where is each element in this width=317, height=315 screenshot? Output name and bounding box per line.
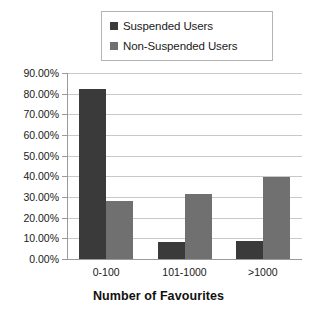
- chart-legend: Suspended Users Non-Suspended Users: [101, 11, 273, 61]
- x-axis-line: [67, 259, 302, 260]
- y-axis-tick-label: 50.00%: [3, 151, 59, 161]
- y-axis-tick-label: 10.00%: [3, 233, 59, 243]
- y-axis-tick-label: 70.00%: [3, 109, 59, 119]
- y-axis-tick-label: 20.00%: [3, 213, 59, 223]
- bar: [236, 241, 263, 259]
- bar: [263, 177, 290, 259]
- x-axis-tick-label: >1000: [223, 266, 303, 278]
- legend-item-suspended-users: Suspended Users: [110, 16, 264, 36]
- legend-item-label: Non-Suspended Users: [123, 40, 237, 52]
- legend-swatch-icon: [110, 42, 118, 50]
- legend-swatch-icon: [110, 22, 118, 30]
- y-axis-tick-label: 0.00%: [3, 254, 59, 264]
- y-axis-tick-label: 40.00%: [3, 171, 59, 181]
- legend-item-non-suspended-users: Non-Suspended Users: [110, 36, 264, 56]
- bar-chart: Suspended Users Non-Suspended Users 0.00…: [0, 0, 317, 315]
- y-axis-tick-label: 90.00%: [3, 68, 59, 78]
- y-axis-tick-label: 60.00%: [3, 130, 59, 140]
- bar: [185, 194, 212, 259]
- bars-layer: [67, 73, 302, 259]
- bar: [158, 242, 185, 259]
- x-axis-tick-label: 101-1000: [145, 266, 225, 278]
- plot-area: [67, 73, 302, 259]
- bar: [106, 201, 133, 259]
- x-axis-tick-label: 0-100: [66, 266, 146, 278]
- x-axis-title: Number of Favourites: [0, 289, 317, 303]
- bar: [79, 89, 106, 260]
- y-axis-tick-label: 80.00%: [3, 89, 59, 99]
- y-axis-tick-label: 30.00%: [3, 192, 59, 202]
- legend-item-label: Suspended Users: [123, 20, 213, 32]
- y-axis-line: [67, 73, 68, 260]
